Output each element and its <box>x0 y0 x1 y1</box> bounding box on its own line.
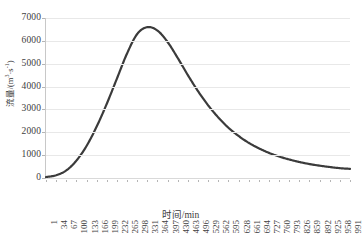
x-tick-label-529: 529 <box>212 220 221 234</box>
y-tick-mark-5000 <box>42 64 45 65</box>
y-axis-title-end: ) <box>5 61 15 64</box>
gridline-y-3000 <box>46 109 350 110</box>
x-tick-mark-892 <box>320 180 321 182</box>
x-tick-mark-430 <box>178 180 179 182</box>
flow-series-line <box>46 18 350 178</box>
y-tick-label-1000: 1000 <box>1 150 41 160</box>
x-tick-mark-793 <box>289 180 290 182</box>
x-tick-mark-199 <box>107 180 108 182</box>
x-tick-label-958: 958 <box>344 220 353 234</box>
x-axis-title: 时间/min <box>0 210 361 221</box>
x-tick-mark-529 <box>208 180 209 182</box>
x-tick-mark-100 <box>76 180 77 182</box>
x-tick-label-397: 397 <box>172 220 181 234</box>
x-tick-mark-727 <box>269 180 270 182</box>
x-tick-mark-958 <box>340 180 341 182</box>
x-tick-mark-133 <box>87 180 88 182</box>
plot-area <box>46 18 350 178</box>
x-tick-mark-232 <box>117 180 118 182</box>
gridline-y-1000 <box>46 155 350 156</box>
x-tick-label-991: 991 <box>354 220 363 234</box>
x-tick-mark-991 <box>350 180 351 182</box>
y-axis-title-exp-time: -1 <box>4 63 10 68</box>
x-tick-label-826: 826 <box>303 220 312 234</box>
x-tick-label-859: 859 <box>313 220 322 234</box>
y-tick-mark-7000 <box>42 18 45 19</box>
y-tick-mark-4000 <box>42 87 45 88</box>
x-tick-mark-1 <box>46 180 47 182</box>
gridline-y-6000 <box>46 41 350 42</box>
x-tick-mark-298 <box>137 180 138 182</box>
x-tick-mark-628 <box>239 180 240 182</box>
y-tick-label-2000: 2000 <box>1 127 41 137</box>
x-tick-mark-925 <box>330 180 331 182</box>
x-tick-mark-661 <box>249 180 250 182</box>
x-tick-mark-34 <box>56 180 57 182</box>
x-tick-label-232: 232 <box>121 220 130 234</box>
y-axis-title-main: 流量/(m <box>5 78 15 108</box>
x-tick-label-166: 166 <box>101 220 110 234</box>
x-tick-mark-331 <box>147 180 148 182</box>
y-tick-label-0: 0 <box>1 173 41 183</box>
x-tick-label-892: 892 <box>324 220 333 234</box>
x-tick-label-925: 925 <box>334 220 343 234</box>
x-tick-mark-595 <box>228 180 229 182</box>
x-tick-mark-496 <box>198 180 199 182</box>
x-tick-mark-166 <box>97 180 98 182</box>
x-tick-label-661: 661 <box>253 220 262 234</box>
y-tick-mark-3000 <box>42 109 45 110</box>
y-axis-title: 流量/(m3·s-1) <box>3 44 15 124</box>
x-tick-mark-760 <box>279 180 280 182</box>
x-tick-mark-364 <box>157 180 158 182</box>
y-tick-mark-6000 <box>42 41 45 42</box>
x-tick-label-496: 496 <box>202 220 211 234</box>
x-tick-label-364: 364 <box>161 220 170 234</box>
x-tick-label-199: 199 <box>111 220 120 234</box>
x-tick-mark-265 <box>127 180 128 182</box>
x-tick-label-760: 760 <box>283 220 292 234</box>
x-tick-mark-67 <box>66 180 67 182</box>
x-tick-label-331: 331 <box>151 220 160 234</box>
y-tick-mark-0 <box>42 178 45 179</box>
x-tick-label-133: 133 <box>91 220 100 234</box>
x-tick-mark-694 <box>259 180 260 182</box>
x-tick-label-265: 265 <box>131 220 140 234</box>
gridline-y-7000 <box>46 18 350 19</box>
y-tick-mark-2000 <box>42 132 45 133</box>
gridline-y-5000 <box>46 64 350 65</box>
x-tick-mark-562 <box>218 180 219 182</box>
x-tick-label-298: 298 <box>141 220 150 234</box>
gridline-y-0 <box>46 178 350 179</box>
x-tick-label-430: 430 <box>182 220 191 234</box>
x-tick-label-628: 628 <box>243 220 252 234</box>
y-tick-label-7000: 7000 <box>1 13 41 23</box>
x-tick-label-34: 34 <box>60 220 69 229</box>
x-tick-mark-463 <box>188 180 189 182</box>
x-tick-label-727: 727 <box>273 220 282 234</box>
x-tick-label-100: 100 <box>80 220 89 234</box>
x-tick-label-793: 793 <box>293 220 302 234</box>
y-tick-mark-1000 <box>42 155 45 156</box>
x-tick-mark-397 <box>168 180 169 182</box>
gridline-y-2000 <box>46 132 350 133</box>
y-axis-title-mid: ·s <box>5 68 15 74</box>
gridline-y-4000 <box>46 87 350 88</box>
x-tick-label-694: 694 <box>263 220 272 234</box>
x-tick-label-562: 562 <box>222 220 231 234</box>
x-tick-mark-826 <box>299 180 300 182</box>
x-tick-label-463: 463 <box>192 220 201 234</box>
x-tick-label-67: 67 <box>70 220 79 229</box>
x-tick-mark-859 <box>309 180 310 182</box>
x-tick-label-595: 595 <box>232 220 241 234</box>
y-axis-title-exp-volume: 3 <box>4 75 10 78</box>
